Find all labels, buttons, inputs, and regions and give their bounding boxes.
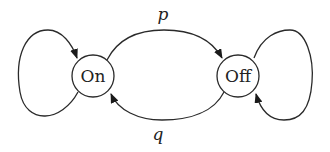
self-loop-off (254, 30, 312, 120)
state-node-off: Off (217, 55, 259, 97)
edge-label-q: q (153, 124, 164, 144)
self-loop-on (18, 30, 78, 116)
edge-off-to-on (111, 92, 224, 120)
state-label-on: On (81, 66, 106, 86)
state-diagram: p q On Off (0, 0, 330, 152)
state-label-off: Off (225, 66, 253, 86)
state-node-on: On (72, 55, 114, 97)
edge-on-to-off (107, 30, 222, 60)
edge-label-p: p (158, 4, 169, 24)
